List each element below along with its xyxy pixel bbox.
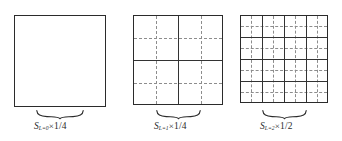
square-level-0	[14, 15, 106, 107]
caption-subscript-0: L=0	[39, 125, 49, 131]
caption-subscript-2: L=2	[265, 125, 275, 131]
grid-refinement-figure: SL=0×1/4 SL=1×1/4	[0, 0, 342, 141]
caption-value-0: 1/4	[54, 121, 66, 131]
brace-level-2	[262, 110, 307, 119]
solid-gridline-h	[241, 37, 327, 38]
solid-gridline-h	[241, 59, 327, 60]
caption-value-1: 1/4	[174, 121, 186, 131]
brace-level-0	[36, 110, 84, 119]
solid-gridline-h	[134, 60, 222, 61]
solid-gridline-h	[241, 81, 327, 82]
caption-value-2: 1/2	[280, 121, 292, 131]
caption-subscript-1: L=1	[159, 125, 169, 131]
caption-level-2: SL=2×1/2	[260, 121, 293, 131]
caption-level-0: SL=0×1/4	[34, 121, 67, 131]
caption-level-1: SL=1×1/4	[154, 121, 187, 131]
brace-level-1	[156, 110, 201, 119]
